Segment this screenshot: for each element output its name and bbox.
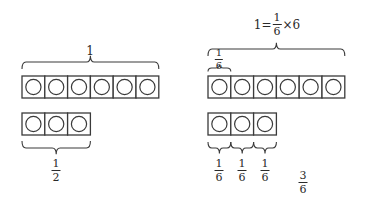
left-whole-label: 1 [86,45,94,57]
fraction-denominator: 6 [261,172,270,183]
fraction-diagram: 1 1 2 1= 1 6 ×6 1 6 1 6 1 6 1 6 3 6 [0,0,365,202]
curly-brace [231,142,254,153]
right-part-fraction-2: 1 6 [238,158,247,183]
left-whole-row [22,76,159,98]
fraction-numerator: 1 [238,158,247,169]
equation-rhs: ×6 [283,18,301,32]
left-half-fraction: 1 2 [52,158,61,183]
fraction-numerator: 3 [299,170,308,181]
right-three-sixths-row [208,113,276,135]
fraction-denominator: 6 [215,61,223,71]
fraction-denominator: 6 [273,26,282,37]
curly-brace [208,43,345,56]
equation-lhs: 1= [254,18,272,32]
fraction-denominator: 6 [238,172,247,183]
equation-fraction: 1 6 [273,12,282,37]
fraction-numerator: 1 [215,158,224,169]
right-equation: 1= 1 6 ×6 [254,12,300,37]
fraction-denominator: 6 [215,172,224,183]
left-half-row [22,113,90,135]
fraction-numerator: 1 [215,48,223,58]
right-unit-fraction: 1 6 [215,48,223,71]
fraction-denominator: 2 [52,172,61,183]
curly-brace [22,141,90,154]
fraction-numerator: 1 [273,12,282,23]
curly-brace [208,142,231,153]
curly-brace [254,142,277,153]
fraction-denominator: 6 [299,184,308,195]
right-total-fraction: 3 6 [299,170,308,195]
right-whole-row [208,76,345,98]
fraction-numerator: 1 [52,158,61,169]
fraction-numerator: 1 [261,158,270,169]
right-part-fraction-1: 1 6 [215,158,224,183]
right-part-fraction-3: 1 6 [261,158,270,183]
